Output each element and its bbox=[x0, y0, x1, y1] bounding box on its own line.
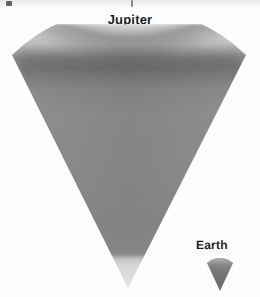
jupiter-scan-grain bbox=[0, 24, 260, 297]
earth-label: Earth bbox=[196, 238, 228, 252]
scan-mark-left-artifact bbox=[6, 1, 12, 6]
earth-scan-grain bbox=[200, 258, 240, 292]
jupiter-wedge bbox=[0, 24, 260, 297]
scan-mark-center-artifact bbox=[131, 0, 133, 7]
scale-comparison-figure: Jupiter bbox=[0, 0, 260, 297]
scan-haze-artifact bbox=[0, 0, 260, 9]
earth-wedge bbox=[200, 258, 240, 292]
